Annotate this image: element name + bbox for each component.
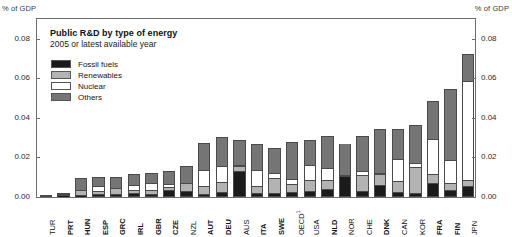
bar-segment-fossil-fuels [111, 195, 121, 196]
bar-segment-nuclear [322, 169, 332, 180]
bar-segment-others [269, 149, 279, 173]
x-axis-label-usa: USA [312, 199, 321, 235]
bar-segment-renewables [181, 184, 191, 192]
bar-segment-fossil-fuels [181, 192, 191, 196]
bar-segment-nuclear [217, 167, 227, 183]
bar-segment-others [340, 144, 350, 176]
bar-stack [75, 178, 87, 197]
bar-stack [163, 171, 175, 197]
y-tick-label-left: 0.06 [2, 74, 30, 82]
y-tick-mark [36, 39, 40, 40]
bar-stack [216, 137, 228, 197]
bar-segment-others [305, 141, 315, 166]
x-axis-label-deu: DEU [224, 199, 233, 235]
bar-segment-renewables [269, 179, 279, 195]
y-tick-mark [36, 78, 40, 79]
bar-segment-fossil-fuels [287, 193, 297, 196]
bar-stack [321, 136, 333, 197]
bar-segment-others [375, 130, 385, 173]
bar-segment-others [41, 195, 51, 196]
bar-stack [128, 174, 140, 197]
bar-segment-fossil-fuels [252, 194, 262, 196]
bar-segment-fossil-fuels [340, 177, 350, 196]
bar-segment-fossil-fuels [375, 186, 385, 196]
x-axis-label-grc: GRC [118, 199, 127, 235]
y-tick-mark [36, 157, 40, 158]
bar-segment-renewables [217, 183, 227, 192]
x-axis-label-esp: ESP [101, 199, 110, 235]
bar-segment-others [181, 167, 191, 184]
bar-segment-renewables [305, 181, 315, 192]
bar-segment-renewables [357, 176, 367, 192]
bar-segment-fossil-fuels [269, 194, 279, 196]
y-tick-label-right: 0.08 [481, 35, 497, 43]
y-tick-label-right: 0.04 [481, 114, 497, 122]
x-axis-label-gbr: GBR [154, 199, 163, 235]
bar-stack [145, 173, 157, 197]
x-axis-label-che: CHE [365, 199, 374, 235]
bar-segment-renewables [428, 175, 438, 184]
x-axis-label-dnk: DNK [382, 199, 391, 235]
bar-segment-others [111, 178, 121, 189]
y-tick-mark [472, 157, 476, 158]
bar-segment-others [129, 175, 139, 186]
x-axis-label-prt: PRT [66, 199, 75, 235]
bar-stack [40, 195, 52, 197]
bar-segment-others [445, 90, 455, 161]
y-tick-label-right: 0.02 [481, 153, 497, 161]
bar-stack [92, 177, 104, 197]
bar-stack [444, 89, 456, 197]
bar-segment-others [252, 145, 262, 172]
bar-segment-others [164, 172, 174, 186]
bar-stack [339, 144, 351, 197]
bar-segment-fossil-fuels [146, 195, 156, 196]
x-axis-label-hun: HUN [83, 199, 92, 235]
bar-segment-nuclear [199, 171, 209, 187]
bar-segment-others [393, 130, 403, 160]
x-axis-label-oecd: OECD1 [294, 199, 306, 235]
bar-segment-renewables [199, 187, 209, 195]
bar-segment-nuclear [393, 160, 403, 181]
bar-segment-others [234, 141, 244, 166]
bar-segment-others [322, 137, 332, 170]
x-axis-label-aus: AUS [242, 199, 251, 235]
bar-stack [462, 54, 474, 197]
bar-stack [268, 148, 280, 197]
left-axis-unit-label: % of GDP [2, 4, 36, 13]
bar-stack [304, 140, 316, 197]
bar-segment-others [199, 144, 209, 171]
x-axis-label-can: CAN [400, 199, 409, 235]
x-axis-label-fra: FRA [435, 199, 444, 235]
chart-figure: % of GDP % of GDP Public R&D by type of … [0, 0, 512, 237]
bar-segment-others [287, 143, 297, 181]
bar-segment-renewables [287, 185, 297, 193]
bar-segment-nuclear [252, 171, 262, 187]
x-axis-label-aut: AUT [206, 199, 215, 235]
y-tick-mark [472, 197, 476, 198]
y-tick-label-left: 0.08 [2, 35, 30, 43]
bar-stack [409, 125, 421, 197]
y-tick-label-right: 0.00 [481, 193, 497, 201]
x-axis-label-ita: ITA [259, 199, 268, 235]
bar-segment-nuclear [463, 82, 473, 181]
bar-stack [356, 136, 368, 197]
bar-segment-fossil-fuels [217, 193, 227, 196]
x-axis-label-nld: NLD [330, 199, 339, 235]
bar-segment-fossil-fuels [322, 190, 332, 196]
y-tick-mark [472, 78, 476, 79]
bar-stack [233, 140, 245, 197]
x-axis-label-cze: CZE [171, 199, 180, 235]
x-axis-label-irl: IRL [136, 199, 145, 235]
x-axis-label-nzl: NZL [189, 199, 198, 235]
bar-stack [180, 166, 192, 197]
x-axis-label-jpn: JPN [470, 199, 479, 235]
x-axis-label-fin: FIN [453, 199, 462, 235]
y-tick-mark [472, 39, 476, 40]
bar-stack [251, 144, 263, 197]
bar-segment-renewables [445, 184, 455, 191]
bar-segment-others [357, 137, 367, 173]
y-tick-label-left: 0.04 [2, 114, 30, 122]
bar-segment-renewables [252, 187, 262, 195]
x-axis-category-labels: TURPRTHUNESPGRCIRLGBRCZENZLAUTDEUAUSITAS… [36, 199, 476, 237]
right-axis-unit-label: % of GDP [475, 4, 509, 13]
